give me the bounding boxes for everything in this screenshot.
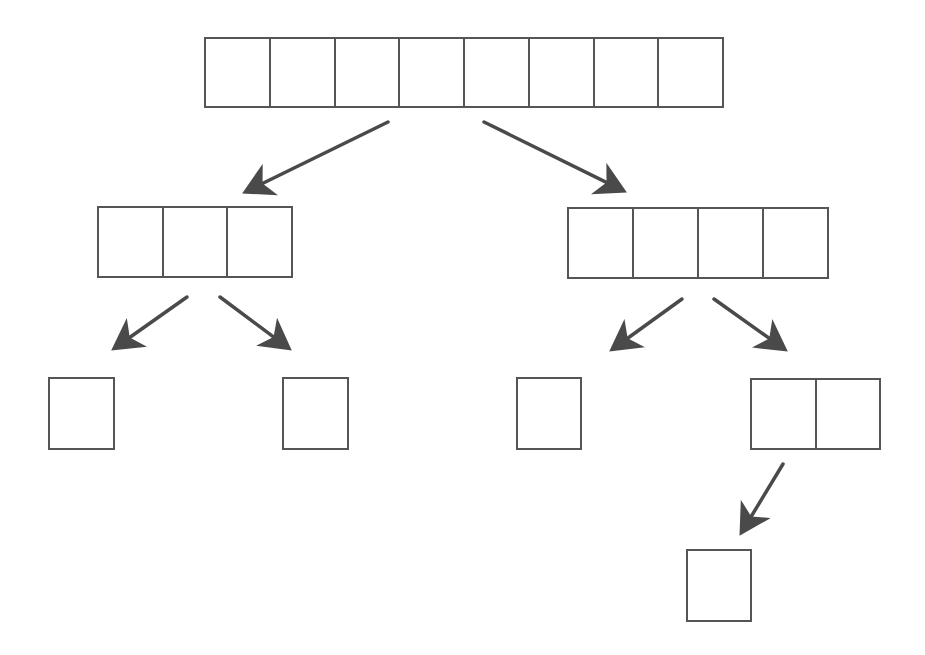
array-node-l2-a — [48, 377, 115, 450]
array-cell — [463, 39, 528, 106]
array-node-l2-d — [750, 378, 881, 450]
arrow-icon — [714, 299, 782, 348]
arrow-icon — [248, 122, 388, 190]
array-cell — [528, 39, 593, 106]
array-cell — [762, 209, 827, 277]
array-cell — [99, 208, 162, 276]
array-cell — [334, 39, 399, 106]
array-cell — [593, 39, 658, 106]
array-cell — [269, 39, 334, 106]
array-cell — [632, 209, 697, 277]
array-cell — [398, 39, 463, 106]
array-node-root — [204, 37, 724, 108]
array-node-l3-a — [686, 549, 752, 622]
array-cell — [284, 379, 347, 448]
array-node-l1-left — [97, 206, 293, 278]
array-split-tree-diagram — [0, 0, 925, 655]
arrow-icon — [743, 464, 783, 530]
array-cell — [657, 39, 722, 106]
array-cell — [226, 208, 291, 276]
array-cell — [206, 39, 269, 106]
array-cell — [815, 380, 880, 448]
arrow-icon — [220, 297, 286, 346]
array-cell — [518, 379, 580, 448]
array-cell — [688, 551, 750, 620]
array-node-l1-right — [567, 207, 829, 279]
arrow-icon — [117, 297, 187, 347]
array-cell — [50, 379, 113, 448]
array-cell — [162, 208, 227, 276]
arrow-icon — [484, 122, 621, 189]
arrow-icon — [615, 299, 682, 347]
array-cell — [752, 380, 815, 448]
array-cell — [569, 209, 632, 277]
array-node-l2-c — [516, 377, 582, 450]
array-node-l2-b — [282, 377, 349, 450]
array-cell — [697, 209, 762, 277]
